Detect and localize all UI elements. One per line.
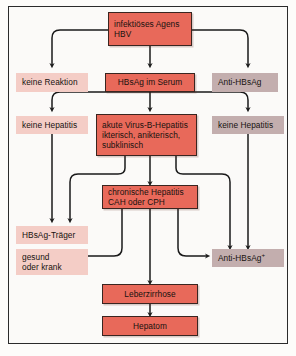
node-line: Anti-HBsAg+ (218, 253, 278, 263)
node-line: gesund (22, 252, 82, 262)
node-infektioeses-agens-hbv: infektiöses Agens HBV (108, 12, 192, 46)
node-line: infektiöses Agens (114, 19, 186, 29)
node-leberzirrhose: Leberzirrhose (102, 284, 198, 304)
superscript-plus: + (261, 251, 265, 258)
node-keine-reaktion: keine Reaktion (16, 73, 88, 92)
node-line: keine Reaktion (22, 77, 82, 87)
node-line: akute Virus-B-Hepatitis (102, 120, 191, 130)
node-anti-hbsag-positiv: Anti-HBsAg+ (212, 249, 284, 267)
node-hbsag-traeger: HBsAg-Träger (16, 226, 88, 244)
node-line: CAH oder CPH (108, 197, 192, 207)
node-hepatom: Hepatom (102, 316, 198, 336)
node-hbsag-im-serum: HBsAg im Serum (105, 73, 195, 92)
node-label: Anti-HBsAg (218, 253, 261, 263)
node-anti-hbsag: Anti-HBsAg (212, 73, 278, 92)
node-line: HBsAg im Serum (111, 77, 189, 87)
node-akute-virus-b-hepatitis: akute Virus-B-Hepatitis ikterisch, anikt… (96, 114, 197, 156)
node-line: ikterisch, anikterisch, (102, 130, 191, 140)
node-line: HBV (114, 29, 186, 39)
flowchart-figure: infektiöses Agens HBV keine Reaktion HBs… (0, 0, 296, 356)
node-line: oder krank (22, 262, 82, 272)
node-keine-hepatitis-rechts: keine Hepatitis (212, 116, 284, 134)
node-line: Hepatom (108, 321, 192, 331)
node-line: keine Hepatitis (22, 120, 82, 130)
node-line: Leberzirrhose (108, 289, 192, 299)
node-gesund-oder-krank: gesund oder krank (16, 249, 88, 275)
node-line: keine Hepatitis (218, 120, 278, 130)
node-line: Anti-HBsAg (218, 77, 272, 87)
node-line: subklinisch (102, 140, 191, 150)
node-chronische-hepatitis: chronische Hepatitis CAH oder CPH (102, 185, 198, 209)
node-line: chronische Hepatitis (108, 187, 192, 197)
node-line: HBsAg-Träger (22, 230, 82, 240)
node-keine-hepatitis-links: keine Hepatitis (16, 116, 88, 134)
